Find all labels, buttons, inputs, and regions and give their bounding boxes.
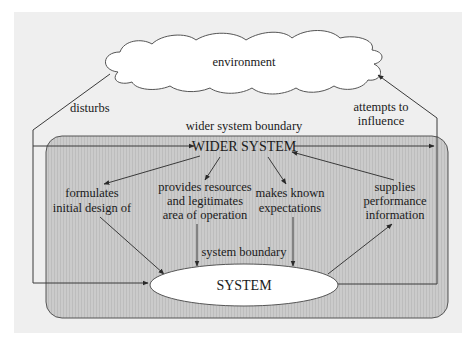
wider-system-diagram: environment disturbs attempts to influen… <box>0 0 471 345</box>
formulates-label-1: formulates <box>65 186 119 200</box>
makes-known-label-2: expectations <box>259 201 322 215</box>
supplies-label-1: supplies <box>375 180 416 194</box>
provides-label-2: and legitimates <box>167 194 243 208</box>
provides-label-1: provides resources <box>158 180 252 194</box>
environment-label: environment <box>212 55 276 69</box>
wider-system-label: WIDER SYSTEM <box>192 139 297 154</box>
supplies-label-3: information <box>365 208 425 222</box>
formulates-label-2: initial design of <box>53 201 132 215</box>
wider-system-boundary-label: wider system boundary <box>186 119 303 133</box>
attempts-to-influence-label-2: influence <box>358 114 405 128</box>
provides-label-3: area of operation <box>163 208 248 222</box>
system-boundary-label: system boundary <box>201 245 287 259</box>
system-label: SYSTEM <box>216 278 272 293</box>
disturbs-label: disturbs <box>70 101 110 115</box>
makes-known-label-1: makes known <box>255 186 325 200</box>
supplies-label-2: performance <box>363 194 427 208</box>
attempts-to-influence-label-1: attempts to <box>353 100 408 114</box>
